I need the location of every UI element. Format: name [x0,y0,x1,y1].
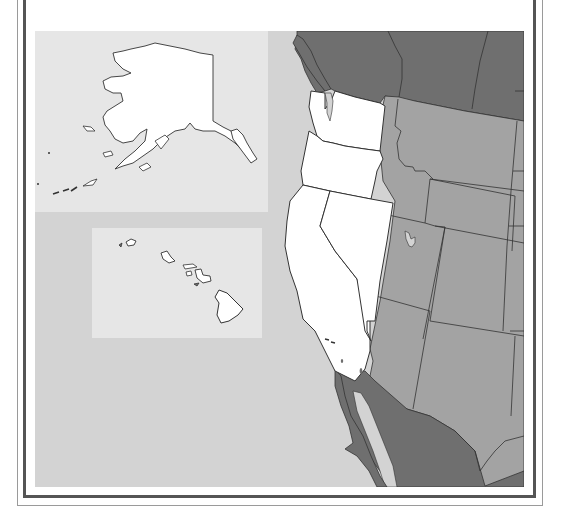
hawaii-inset-frame [92,228,262,338]
island [48,152,50,154]
hawaii-lanai [186,271,192,276]
island [37,183,39,185]
map-canvas [35,31,524,487]
western-us-map [35,31,524,487]
island [341,359,343,363]
island [360,368,363,374]
island [346,411,348,415]
